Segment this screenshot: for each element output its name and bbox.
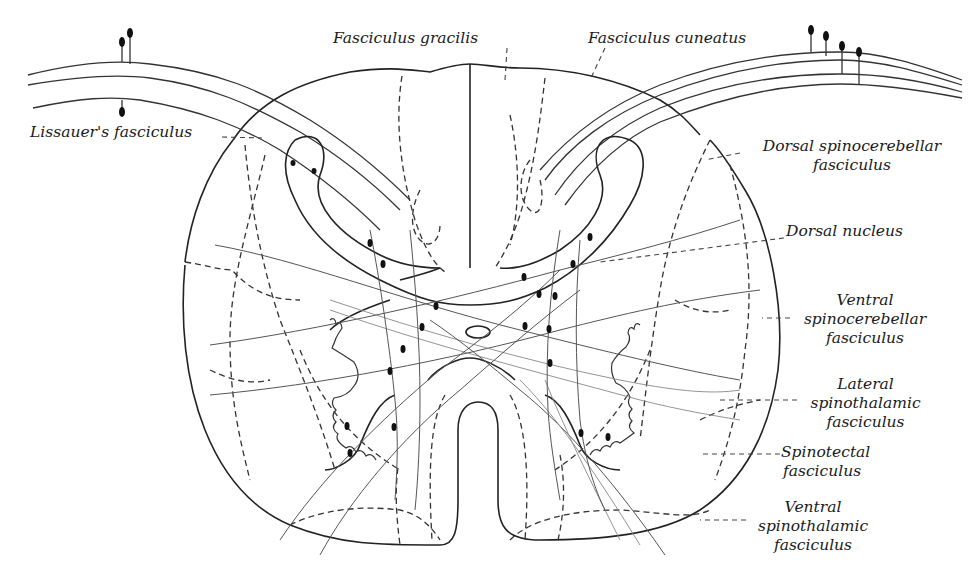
cell-body: [392, 423, 397, 431]
label-line: fasciculus: [742, 156, 962, 175]
cell-body: [381, 260, 386, 268]
cell-body: [523, 322, 528, 330]
nerve-fibers: [210, 220, 760, 555]
cell-body: [119, 37, 125, 47]
cell-body: [823, 31, 829, 41]
label-line: fasciculus: [748, 536, 878, 555]
cell-body: [547, 325, 552, 333]
label-ventral-spinothalamic-fasciculus: Ventral spinothalamic fasciculus: [748, 498, 878, 555]
tract-boundaries: [185, 76, 760, 545]
cell-body: [420, 323, 425, 331]
cell-body: [434, 302, 439, 310]
label-dorsal-nucleus: Dorsal nucleus: [786, 222, 903, 241]
label-line: Fasciculus cuneatus: [588, 29, 746, 48]
label-line: Fasciculus gracilis: [333, 29, 478, 48]
cell-body: [548, 359, 553, 367]
label-line: spinocerebellar: [790, 310, 940, 329]
ganglion-cells: [119, 25, 862, 457]
label-line: spinothalamic: [798, 394, 933, 413]
label-line: Spinotectal: [781, 443, 870, 462]
cell-body: [312, 168, 317, 174]
label-line: Dorsal spinocerebellar: [742, 137, 962, 156]
cell-body: [808, 25, 814, 35]
label-line: fasciculus: [790, 329, 940, 348]
central-canal: [466, 326, 490, 338]
label-line: Ventral: [790, 291, 940, 310]
cell-body: [401, 345, 406, 353]
cell-body: [388, 367, 393, 375]
cell-body: [291, 160, 296, 166]
cell-body: [839, 41, 845, 51]
label-fasciculus-cuneatus: Fasciculus cuneatus: [588, 29, 746, 48]
label-line: fasciculus: [798, 413, 933, 432]
cell-body: [119, 107, 125, 117]
label-lateral-spinothalamic-fasciculus: Lateral spinothalamic fasciculus: [798, 375, 933, 432]
cell-body: [588, 233, 593, 241]
label-line: Lissauer's fasciculus: [30, 123, 192, 142]
cell-body: [368, 239, 373, 247]
cell-body: [127, 28, 133, 38]
cell-body: [571, 260, 576, 268]
label-line: Ventral: [748, 498, 878, 517]
label-fasciculus-gracilis: Fasciculus gracilis: [333, 29, 478, 48]
label-line: fasciculus: [781, 462, 870, 481]
cell-body: [348, 449, 353, 457]
dorsal-root-right: [540, 32, 962, 205]
label-spinotectal-fasciculus: Spinotectal fasciculus: [781, 443, 870, 481]
label-line: Dorsal nucleus: [786, 222, 903, 241]
label-line: Lateral: [798, 375, 933, 394]
label-lissauers-fasciculus: Lissauer's fasciculus: [30, 123, 192, 142]
cell-body: [606, 433, 611, 441]
cell-body: [579, 429, 584, 437]
cell-body: [553, 292, 558, 300]
label-line: spinothalamic: [748, 517, 878, 536]
cell-body: [345, 422, 350, 430]
cell-body: [522, 273, 527, 281]
label-ventral-spinocerebellar-fasciculus: Ventral spinocerebellar fasciculus: [790, 291, 940, 348]
cell-body: [537, 290, 542, 298]
label-dorsal-spinocerebellar-fasciculus: Dorsal spinocerebellar fasciculus: [742, 137, 962, 175]
cell-body: [856, 47, 862, 57]
